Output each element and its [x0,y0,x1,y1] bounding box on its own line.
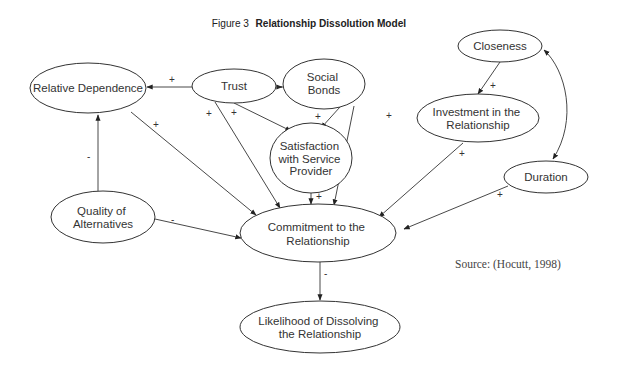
edge-closeness-duration [544,50,567,159]
sign-closeness-investment: + [490,80,496,91]
sign-trust-reldep: + [169,74,175,85]
label-trust: Trust [221,80,248,92]
diagram-canvas: + + + + + + + - - + + + + - Relative Dep… [0,0,618,374]
edge-reldep-commitment [131,112,256,215]
label-closeness: Closeness [473,40,527,52]
label-quality: Quality of Alternatives [73,205,133,230]
edge-investment-commitment [379,143,463,217]
node-commitment [240,204,396,262]
edge-duration-commitment [404,186,508,229]
label-duration: Duration [524,171,567,183]
edge-closeness-investment [478,62,500,94]
sign-duration-commitment: + [497,189,503,200]
edge-trust-satisfaction [234,103,291,131]
sign-investment-commitment: + [459,148,465,159]
node-investment [417,94,539,142]
sign-social-commitment: + [386,110,392,121]
edge-quality-commitment [155,219,241,238]
node-likelihood [240,301,400,353]
sign-reldep-commitment: + [153,119,159,130]
sign-quality-reldep: - [87,151,90,162]
sign-social-satisfaction: + [315,111,321,122]
label-social-bonds: Social Bonds [307,71,342,96]
sign-quality-commitment: - [171,214,174,225]
source-citation: Source: (Hocutt, 1998) [455,258,561,270]
sign-trust-satisfaction: + [231,107,237,118]
label-relative-dependence: Relative Dependence [33,82,143,94]
sign-commitment-likelihood: - [324,268,327,279]
sign-trust-commitment: + [206,108,212,119]
node-quality [51,191,155,243]
